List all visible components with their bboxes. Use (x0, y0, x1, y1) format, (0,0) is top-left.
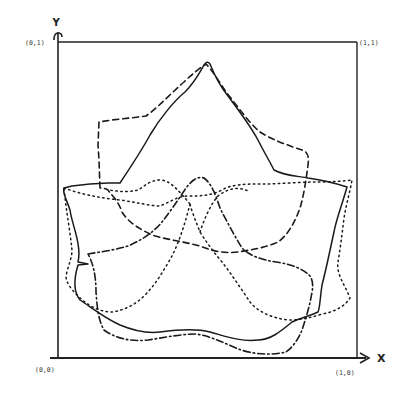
solid-outline (63, 62, 347, 340)
label-bottom-right: (1,0) (335, 369, 355, 377)
dotted-outline (64, 180, 352, 320)
y-axis-label: Y (51, 17, 60, 28)
axes: Y X (50, 17, 386, 365)
label-top-right: (1,1) (359, 39, 379, 47)
corner-labels: (0,1) (1,1) (0,0) (1,0) (25, 39, 379, 377)
dashed-outline (98, 64, 308, 253)
leaf-outlines-diagram: Y X (0,1) (1,1) (0,0) (1,0) (0, 0, 409, 398)
label-top-left: (0,1) (25, 39, 45, 47)
dash-dot-outline (88, 177, 313, 354)
x-axis-label: X (377, 352, 386, 365)
label-origin: (0,0) (35, 366, 55, 374)
